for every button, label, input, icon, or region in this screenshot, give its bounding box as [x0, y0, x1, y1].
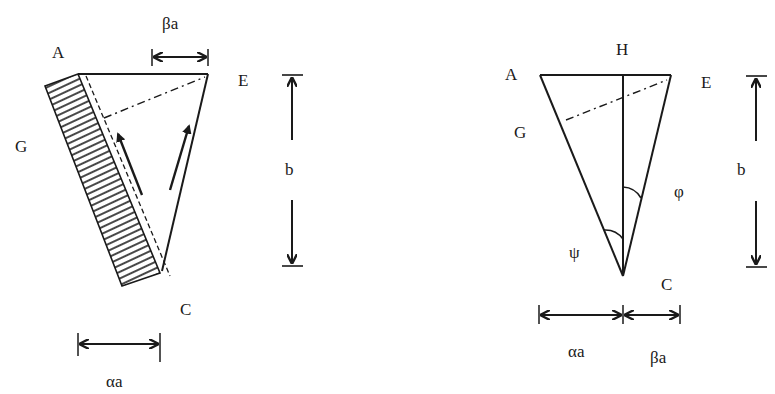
label-b-left: b [285, 160, 294, 179]
diagram-canvas: βa αa b A E G C ψ φ αa βa [0, 0, 775, 394]
label-H: H [616, 40, 628, 59]
label-psi: ψ [569, 243, 580, 262]
label-alpha-a: αa [106, 372, 123, 391]
label-A-right: A [505, 65, 518, 84]
label-G-right: G [514, 123, 526, 142]
arrow-along-EC [170, 126, 189, 190]
label-G-left: G [15, 137, 27, 156]
edge-EC [162, 74, 208, 271]
label-phi: φ [674, 182, 684, 201]
label-A-left: A [52, 43, 65, 62]
label-beta-a: βa [162, 14, 179, 33]
label-C-right: C [661, 275, 672, 294]
left-panel: βa αa b A E G C [15, 14, 303, 391]
edge-AC-right [540, 75, 623, 276]
label-C-left: C [180, 300, 191, 319]
right-panel: ψ φ αa βa b H A E G C [505, 40, 767, 367]
dashdot-GE [104, 77, 205, 118]
hatched-wall [45, 74, 160, 286]
label-E-left: E [238, 71, 248, 90]
label-beta-a-right: βa [650, 348, 667, 367]
edge-EC-right [623, 75, 671, 276]
label-b-right: b [737, 160, 746, 179]
label-alpha-a-right: αa [568, 342, 585, 361]
label-E-right: E [701, 73, 711, 92]
angle-arc-phi [623, 187, 641, 198]
dashdot-GE-right [566, 80, 667, 120]
